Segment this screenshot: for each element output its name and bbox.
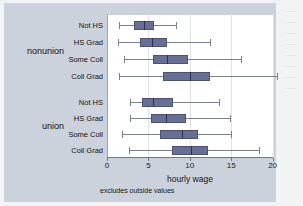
x-axis-tick-label: 10 (185, 161, 194, 170)
margin-text-line: ———— (284, 61, 302, 72)
category-label: Not HS (79, 21, 103, 30)
x-axis-tick-label: 5 (146, 161, 150, 170)
boxplot-whisker-cap (230, 115, 231, 122)
boxplot-whisker-cap (119, 73, 120, 80)
gridline (148, 14, 149, 157)
figure-panel: Not HSHS GradSome CollColl GradNot HSHS … (4, 3, 276, 202)
category-label: HS Grad (74, 114, 103, 123)
group-label: nonunion (27, 46, 64, 56)
boxplot-whisker-cap (259, 147, 260, 154)
margin-text-line: ———— (284, 72, 302, 83)
boxplot-whisker-cap (241, 56, 242, 63)
margin-text-line: ———— (284, 50, 302, 61)
category-label: Coll Grad (71, 72, 103, 81)
margin-text-line: ———— (284, 39, 302, 50)
margin-text-line: ———— (284, 28, 302, 39)
category-label: Some Coll (68, 130, 103, 139)
margin-text-line: ———— (284, 6, 302, 17)
chart-footnote: excludes outside values (100, 187, 174, 194)
boxplot-median (191, 146, 192, 155)
x-axis-tick-label: 20 (268, 161, 277, 170)
boxplot-whisker-cap (231, 131, 232, 138)
category-label: Not HS (79, 98, 103, 107)
boxplot-median (190, 72, 191, 81)
margin-text-line: ———— (284, 83, 302, 94)
boxplot-whisker-cap (119, 22, 120, 29)
boxplot-whisker-cap (129, 147, 130, 154)
boxplot-median (166, 114, 167, 123)
boxplot-box (142, 98, 173, 107)
category-label: Some Coll (68, 55, 103, 64)
gridline (273, 14, 274, 157)
adjacent-page-text-fragment: ———————————————————————————————— (284, 6, 302, 116)
boxplot-whisker-cap (122, 131, 123, 138)
boxplot-whisker-cap (124, 56, 125, 63)
boxplot-whisker-cap (176, 22, 177, 29)
boxplot-box (160, 130, 198, 139)
boxplot-whisker-cap (118, 39, 119, 46)
boxplot-whisker-cap (130, 115, 131, 122)
category-label: Coll Grad (71, 146, 103, 155)
boxplot-median (167, 55, 168, 64)
boxplot-median (153, 98, 154, 107)
boxplot-box (153, 55, 189, 64)
x-axis-tick-label: 0 (105, 161, 109, 170)
x-axis-title: hourly wage (167, 174, 213, 184)
scanned-page-background: Not HSHS GradSome CollColl GradNot HSHS … (0, 0, 303, 206)
boxplot-whisker-cap (130, 99, 131, 106)
boxplot-whisker-cap (277, 73, 278, 80)
boxplot-whisker-cap (210, 39, 211, 46)
category-label: HS Grad (74, 38, 103, 47)
margin-text-line: ———— (284, 17, 302, 28)
boxplot-box (163, 72, 209, 81)
boxplot-median (152, 38, 153, 47)
x-axis-tick-label: 15 (227, 161, 236, 170)
boxplot-median (144, 21, 145, 30)
boxplot-box (140, 38, 166, 47)
boxplot-whisker-cap (219, 99, 220, 106)
boxplot-median (182, 130, 183, 139)
group-label: union (42, 121, 64, 131)
boxplot-box (151, 114, 187, 123)
